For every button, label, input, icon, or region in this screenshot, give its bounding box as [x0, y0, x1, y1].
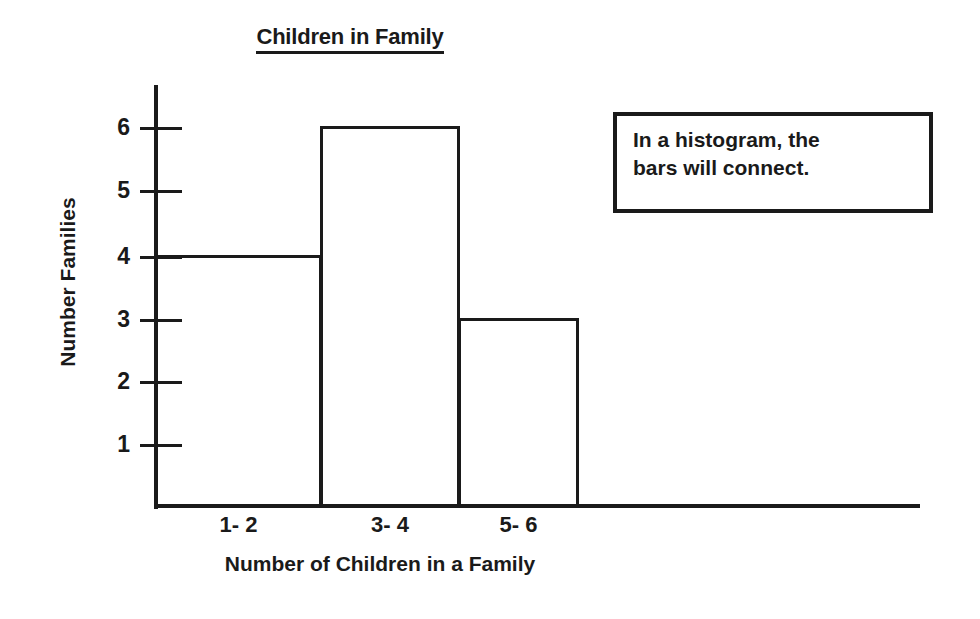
- y-tick-mark-5: [140, 190, 182, 193]
- note-callout-box: In a histogram, the bars will connect.: [613, 112, 933, 213]
- y-tick-label-2: 2: [90, 370, 130, 393]
- plot-area: 6 5 4 3 2 1 1- 2 3- 4 5- 6 Number Famili…: [0, 0, 980, 619]
- bar-3-4: [320, 126, 460, 507]
- bar-label-3-4: 3- 4: [320, 512, 460, 538]
- y-tick-label-1: 1: [90, 433, 130, 456]
- bar-label-5-6: 5- 6: [458, 512, 579, 538]
- y-tick-label-3: 3: [90, 308, 130, 331]
- note-line-2: bars will connect.: [633, 154, 913, 182]
- x-axis-title: Number of Children in a Family: [120, 552, 640, 576]
- y-tick-label-5: 5: [90, 179, 130, 202]
- y-tick-label-4: 4: [90, 245, 130, 268]
- y-axis-title: Number Families: [56, 172, 80, 392]
- bar-label-1-2: 1- 2: [155, 512, 322, 538]
- note-line-1: In a histogram, the: [633, 126, 913, 154]
- histogram-figure: Children in Family 6 5 4 3 2 1 1- 2 3- 4…: [0, 0, 980, 619]
- y-tick-label-6: 6: [90, 116, 130, 139]
- bar-5-6: [458, 318, 579, 507]
- bar-1-2: [155, 255, 322, 507]
- y-tick-mark-6: [140, 127, 182, 130]
